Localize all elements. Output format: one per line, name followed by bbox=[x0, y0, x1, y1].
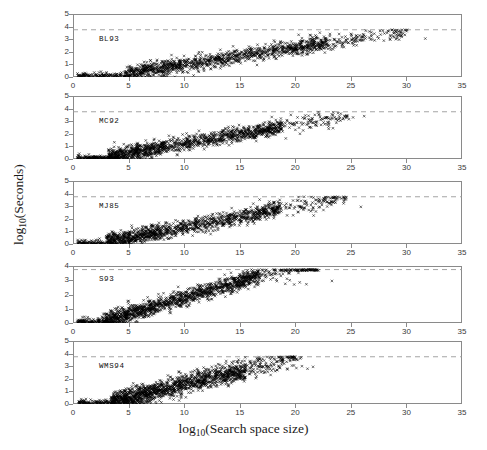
y-axis-label: log10(Seconds) bbox=[6, 0, 32, 410]
x-tick-mark bbox=[184, 404, 185, 408]
y-tick-label: 1 bbox=[55, 142, 69, 150]
x-tick-label: 30 bbox=[402, 409, 411, 417]
y-tick-mark bbox=[69, 134, 73, 135]
x-tick-mark bbox=[295, 159, 296, 163]
y-tick-mark bbox=[69, 231, 73, 232]
x-tick-mark bbox=[406, 404, 407, 408]
x-axis-label-rest: (Search space size) bbox=[205, 421, 308, 436]
x-tick-label: 0 bbox=[71, 164, 75, 172]
y-tick-label: 3 bbox=[55, 202, 69, 210]
x-tick-label: 0 bbox=[71, 409, 75, 417]
x-tick-label: 30 bbox=[402, 249, 411, 257]
x-tick-mark bbox=[406, 244, 407, 248]
y-tick-label: 1 bbox=[55, 60, 69, 68]
y-tick-mark bbox=[69, 64, 73, 65]
y-tick-label: 5 bbox=[55, 177, 69, 185]
data-point-cloud bbox=[76, 268, 333, 323]
scatter-panel-mj85: 01234505101520253035MJ85 bbox=[73, 181, 462, 244]
x-tick-mark bbox=[295, 404, 296, 408]
data-point-cloud bbox=[76, 111, 365, 159]
y-tick-mark bbox=[69, 341, 73, 342]
y-tick-mark bbox=[69, 206, 73, 207]
x-tick-label: 0 bbox=[71, 82, 75, 90]
x-tick-label: 15 bbox=[235, 82, 244, 90]
y-tick-label: 3 bbox=[55, 276, 69, 284]
y-tick-label: 4 bbox=[55, 190, 69, 198]
panel-plot-area bbox=[73, 341, 462, 404]
x-tick-label: 5 bbox=[126, 409, 130, 417]
x-tick-label: 20 bbox=[291, 82, 300, 90]
y-tick-mark bbox=[69, 194, 73, 195]
x-tick-mark bbox=[351, 323, 352, 327]
y-tick-mark bbox=[69, 121, 73, 122]
y-tick-mark bbox=[69, 366, 73, 367]
x-tick-mark bbox=[129, 159, 130, 163]
x-tick-label: 25 bbox=[346, 82, 355, 90]
y-tick-label: 0 bbox=[55, 240, 69, 248]
x-tick-label: 30 bbox=[402, 164, 411, 172]
y-tick-label: 3 bbox=[55, 117, 69, 125]
x-tick-mark bbox=[184, 77, 185, 81]
x-tick-label: 25 bbox=[346, 249, 355, 257]
y-tick-label: 0 bbox=[55, 73, 69, 81]
y-tick-mark bbox=[69, 27, 73, 28]
x-tick-mark bbox=[184, 159, 185, 163]
x-tick-mark bbox=[295, 77, 296, 81]
y-tick-label: 2 bbox=[55, 291, 69, 299]
x-tick-label: 15 bbox=[235, 409, 244, 417]
y-tick-mark bbox=[69, 280, 73, 281]
y-tick-mark bbox=[69, 295, 73, 296]
y-tick-label: 1 bbox=[55, 305, 69, 313]
x-tick-label: 10 bbox=[180, 328, 189, 336]
panel-label-s93: S93 bbox=[99, 275, 114, 283]
x-tick-label: 15 bbox=[235, 328, 244, 336]
x-tick-label: 15 bbox=[235, 249, 244, 257]
x-tick-label: 35 bbox=[458, 409, 467, 417]
scatter-panel-wms94: 01234505101520253035WMS94 bbox=[73, 341, 462, 404]
y-tick-mark bbox=[69, 404, 73, 405]
x-tick-label: 10 bbox=[180, 249, 189, 257]
x-tick-mark bbox=[351, 244, 352, 248]
panel-label-mj85: MJ85 bbox=[99, 202, 119, 210]
panel-label-wms94: WMS94 bbox=[99, 362, 125, 370]
x-tick-label: 25 bbox=[346, 328, 355, 336]
y-tick-label: 4 bbox=[55, 350, 69, 358]
x-tick-label: 5 bbox=[126, 82, 130, 90]
y-tick-label: 2 bbox=[55, 130, 69, 138]
x-tick-mark bbox=[184, 323, 185, 327]
x-tick-label: 5 bbox=[126, 164, 130, 172]
x-tick-mark bbox=[184, 244, 185, 248]
x-tick-mark bbox=[129, 244, 130, 248]
x-tick-mark bbox=[129, 323, 130, 327]
data-point-cloud bbox=[76, 29, 426, 77]
x-tick-label: 10 bbox=[180, 164, 189, 172]
x-axis-label-prefix: log bbox=[178, 421, 195, 436]
panel-label-bl93: BL93 bbox=[99, 35, 119, 43]
y-axis-label-subscript: 10 bbox=[18, 219, 28, 229]
y-tick-label: 1 bbox=[55, 227, 69, 235]
y-tick-mark bbox=[69, 159, 73, 160]
x-tick-mark bbox=[240, 323, 241, 327]
y-tick-label: 5 bbox=[55, 92, 69, 100]
x-tick-mark bbox=[406, 323, 407, 327]
panel-plot-area bbox=[73, 96, 462, 159]
x-tick-label: 30 bbox=[402, 82, 411, 90]
y-tick-mark bbox=[69, 77, 73, 78]
y-tick-label: 2 bbox=[55, 375, 69, 383]
y-tick-label: 2 bbox=[55, 215, 69, 223]
x-tick-label: 20 bbox=[291, 328, 300, 336]
x-tick-label: 5 bbox=[126, 249, 130, 257]
y-tick-label: 3 bbox=[55, 362, 69, 370]
x-tick-mark bbox=[351, 77, 352, 81]
y-tick-label: 0 bbox=[55, 400, 69, 408]
y-tick-mark bbox=[69, 219, 73, 220]
x-tick-label: 10 bbox=[180, 82, 189, 90]
panel-plot-area bbox=[73, 266, 462, 323]
y-tick-mark bbox=[69, 96, 73, 97]
x-tick-label: 35 bbox=[458, 249, 467, 257]
figure-scatter-matrix: log10(Seconds) 01234505101520253035BL930… bbox=[0, 0, 487, 450]
y-tick-mark bbox=[69, 391, 73, 392]
y-tick-label: 2 bbox=[55, 48, 69, 56]
x-axis-label-subscript: 10 bbox=[196, 428, 206, 438]
x-tick-mark bbox=[351, 404, 352, 408]
